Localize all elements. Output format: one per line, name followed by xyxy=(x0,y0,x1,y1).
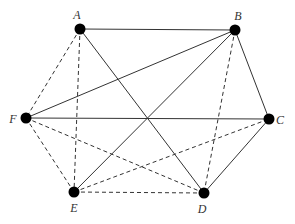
node-E xyxy=(69,187,80,198)
node-label-B: B xyxy=(234,9,242,23)
node-D xyxy=(199,188,210,199)
edge-A-E xyxy=(74,29,80,192)
edge-F-E xyxy=(26,118,74,192)
node-label-F: F xyxy=(8,112,17,126)
node-label-E: E xyxy=(69,201,78,215)
edge-C-D xyxy=(204,119,269,193)
labels-layer: ABCDEF xyxy=(8,8,285,216)
edge-E-D xyxy=(74,192,204,193)
node-B xyxy=(230,25,241,36)
node-label-D: D xyxy=(197,202,207,216)
edge-A-D xyxy=(80,29,204,193)
edge-B-F xyxy=(26,30,235,118)
nodes-layer xyxy=(21,24,275,199)
graph-diagram: ABCDEF xyxy=(0,0,295,224)
edge-F-D xyxy=(26,118,204,193)
edge-A-B xyxy=(80,29,235,30)
node-C xyxy=(264,114,275,125)
edges-layer xyxy=(26,29,269,193)
edge-B-E xyxy=(74,30,235,192)
edge-B-C xyxy=(235,30,269,119)
edge-B-D xyxy=(204,30,235,193)
node-A xyxy=(75,24,86,35)
edge-A-F xyxy=(26,29,80,118)
node-label-C: C xyxy=(276,113,285,127)
edge-F-C xyxy=(26,118,269,119)
edge-E-C xyxy=(74,119,269,192)
node-label-A: A xyxy=(72,8,81,22)
node-F xyxy=(21,113,32,124)
